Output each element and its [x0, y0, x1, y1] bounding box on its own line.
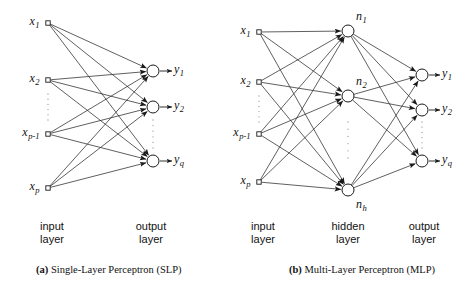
mlp-hidden-ellipsis-dot: [347, 150, 348, 151]
caption-slp: (a) Single-Layer Perceptron (SLP): [36, 264, 182, 275]
mlp-input-label-3-base: x: [233, 125, 238, 139]
mlp-output-label-2-base: y: [442, 101, 447, 115]
mlp-input-node-4: [257, 180, 261, 184]
slp-output-node-3: [147, 155, 159, 167]
mlp-output-ellipsis-dot: [421, 121, 422, 122]
slp-output-layer-label-line1: output: [111, 220, 191, 233]
slp-output-label-2-subscript: 2: [180, 104, 184, 114]
slp-input-layer-label-line2: layer: [12, 233, 92, 246]
mlp-input-ellipsis-dot: [258, 111, 259, 112]
network-diagram-canvas: [0, 0, 468, 304]
mlp-input-label-4-subscript: p: [246, 179, 250, 189]
connection-edge: [353, 34, 416, 71]
mlp-output-label-1-base: y: [442, 66, 447, 80]
connection-edge: [261, 84, 344, 184]
mlp-input-ellipsis-dot: [258, 101, 259, 102]
mlp-output-label-1: y1: [442, 66, 452, 81]
slp-output-layer-label-line2: layer: [111, 233, 191, 246]
slp-input-layer-label-line1: input: [12, 220, 92, 233]
mlp-edge-group: [260, 31, 418, 189]
mlp-hidden-ellipsis-dot: [347, 129, 348, 130]
mlp-output-node-1: [416, 69, 428, 81]
slp-output-node-2: [147, 101, 159, 113]
connection-edge: [261, 34, 342, 92]
caption-slp-prefix: (a): [36, 264, 48, 275]
mlp-input-label-2-base: x: [240, 73, 245, 87]
mlp-input-layer-label-line2: layer: [223, 233, 303, 246]
mlp-output-ellipsis-dot: [421, 142, 422, 143]
mlp-input-label-1-base: x: [240, 23, 245, 37]
connection-edge: [262, 31, 341, 32]
connection-edge: [262, 82, 341, 94]
mlp-hidden-label-1-subscript: 1: [363, 15, 367, 25]
caption-mlp-text: Multi-Layer Perceptron (MLP): [302, 264, 435, 275]
mlp-hidden-layer-label-line2: layer: [308, 233, 388, 246]
slp-input-ellipsis-dot: [47, 119, 48, 120]
mlp-input-layer-label-line1: input: [223, 220, 303, 233]
mlp-input-layer-label: inputlayer: [223, 220, 303, 245]
mlp-input-label-2-subscript: 2: [246, 79, 250, 89]
mlp-hidden-label-3-subscript: h: [363, 203, 367, 213]
mlp-hidden-node-2: [342, 90, 354, 102]
caption-mlp-prefix: (b): [289, 264, 302, 275]
mlp-input-ellipsis-dot: [258, 106, 259, 107]
mlp-hidden-label-2: n2: [356, 74, 366, 89]
slp-edge-group: [50, 24, 149, 187]
slp-input-ellipsis-dot: [47, 99, 48, 100]
slp-input-ellipsis-dot: [47, 109, 48, 110]
mlp-node-group: [257, 25, 440, 196]
connection-edge: [262, 99, 342, 133]
figure-root: x1x2xp-1xpy1y2yqx1x2xp-1xpn1n2nhy1y2yq i…: [0, 0, 468, 304]
mlp-output-label-2: y2: [442, 101, 452, 116]
mlp-output-label-3-base: y: [442, 152, 447, 166]
mlp-output-ellipsis-dot: [421, 127, 422, 128]
mlp-input-node-3: [257, 132, 261, 136]
mlp-hidden-label-3: nh: [356, 197, 366, 212]
mlp-input-label-3-subscript: p-1: [239, 131, 250, 141]
slp-output-label-2-base: y: [174, 98, 179, 112]
mlp-input-ellipsis-dot: [258, 121, 259, 122]
mlp-output-label-3: yq: [442, 152, 452, 167]
slp-input-ellipsis-dot: [47, 114, 48, 115]
mlp-input-label-1-subscript: 1: [246, 29, 250, 39]
mlp-hidden-label-2-subscript: 2: [363, 80, 367, 90]
mlp-output-label-2-subscript: 2: [448, 107, 452, 117]
mlp-input-label-4-base: x: [240, 173, 245, 187]
mlp-hidden-label-3-base: n: [356, 197, 362, 211]
mlp-hidden-label-1: n1: [356, 9, 366, 24]
mlp-hidden-label-1-base: n: [356, 9, 362, 23]
mlp-hidden-label-2-base: n: [356, 74, 362, 88]
slp-output-label-3: yq: [174, 152, 184, 167]
slp-input-ellipsis-dot: [47, 104, 48, 105]
mlp-hidden-ellipsis-dot: [347, 136, 348, 137]
mlp-output-layer-label-line1: output: [384, 220, 464, 233]
connection-edge: [351, 81, 418, 185]
connection-edge: [352, 115, 417, 185]
mlp-hidden-layer-label: hiddenlayer: [308, 220, 388, 245]
slp-input-layer-label: inputlayer: [12, 220, 92, 245]
connection-edge: [354, 97, 415, 109]
connection-edge: [353, 100, 417, 156]
mlp-output-layer-label: outputlayer: [384, 220, 464, 245]
slp-output-ellipsis-dot: [152, 142, 153, 143]
mlp-output-node-3: [416, 155, 428, 167]
connection-edge: [352, 35, 417, 104]
mlp-input-node-2: [257, 80, 261, 84]
slp-node-group: [46, 21, 172, 190]
mlp-input-label-1: x1: [0, 23, 250, 38]
mlp-output-ellipsis-dot: [421, 137, 422, 138]
mlp-output-layer-label-line2: layer: [384, 233, 464, 246]
mlp-input-node-1: [257, 30, 261, 34]
mlp-output-ellipsis-dot: [421, 147, 422, 148]
mlp-hidden-ellipsis-dot: [347, 121, 348, 122]
mlp-hidden-node-1: [342, 25, 354, 37]
mlp-hidden-ellipsis-dot: [347, 157, 348, 158]
slp-output-label-3-subscript: q: [180, 158, 184, 168]
mlp-output-ellipsis-dot: [421, 132, 422, 133]
slp-output-label-3-base: y: [174, 152, 179, 166]
connection-edge: [262, 182, 341, 189]
mlp-output-label-3-subscript: q: [448, 158, 452, 168]
slp-output-ellipsis-dot: [152, 147, 153, 148]
mlp-hidden-node-3: [342, 184, 354, 196]
mlp-input-label-3: xp-1: [0, 125, 250, 140]
